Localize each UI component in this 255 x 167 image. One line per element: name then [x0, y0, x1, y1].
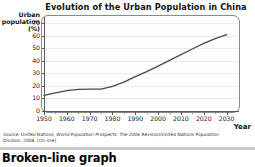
- x-tick-mark: [44, 112, 45, 115]
- source-note: Source: United Nations, World Population…: [3, 132, 229, 143]
- x-tick-mark-minor: [215, 112, 216, 114]
- x-tick-label: 1980: [101, 115, 123, 122]
- x-tick-mark-minor: [170, 112, 171, 114]
- figure-caption: Broken-line graph: [2, 151, 117, 165]
- x-tick-label: 2030: [216, 115, 238, 122]
- x-tick-mark: [181, 112, 182, 115]
- y-tick-label: 70: [24, 20, 40, 26]
- y-tick-label: 60: [24, 33, 40, 39]
- y-tick-label: 30: [24, 70, 40, 76]
- x-tick-mark: [90, 112, 91, 115]
- x-tick-label: 2020: [193, 115, 215, 122]
- divider-rule: [0, 147, 255, 150]
- x-tick-mark: [204, 112, 205, 115]
- x-tick-label: 1960: [56, 115, 78, 122]
- y-tick-label: 0: [24, 108, 40, 114]
- x-tick-mark-minor: [192, 112, 193, 114]
- data-series-line: [44, 17, 238, 112]
- x-tick-label: 1950: [33, 115, 55, 122]
- x-tick-label: 2010: [170, 115, 192, 122]
- x-tick-label: 2000: [147, 115, 169, 122]
- x-tick-mark-minor: [101, 112, 102, 114]
- y-tick-label: 50: [24, 45, 40, 51]
- x-tick-mark-minor: [147, 112, 148, 114]
- y-axis-label-line-1: Urban: [0, 11, 40, 18]
- x-tick-mark: [67, 112, 68, 115]
- x-tick-label: 1970: [79, 115, 101, 122]
- x-tick-mark-minor: [78, 112, 79, 114]
- x-tick-mark: [135, 112, 136, 115]
- x-tick-mark-minor: [124, 112, 125, 114]
- urban-population-line: [44, 35, 227, 96]
- x-axis-title: Year: [234, 123, 251, 131]
- x-tick-mark: [227, 112, 228, 115]
- broken-line-graph-figure: Evolution of the Urban Population in Chi…: [0, 0, 255, 167]
- x-tick-mark-minor: [55, 112, 56, 114]
- x-tick-mark: [112, 112, 113, 115]
- source-line-2: 2008. [On line]: [23, 138, 56, 143]
- y-tick-label: 10: [24, 95, 40, 101]
- x-tick-mark: [158, 112, 159, 115]
- y-tick-label: 20: [24, 83, 40, 89]
- chart-title: Evolution of the Urban Population in Chi…: [42, 2, 250, 12]
- x-tick-label: 1990: [124, 115, 146, 122]
- y-tick-label: 40: [24, 58, 40, 64]
